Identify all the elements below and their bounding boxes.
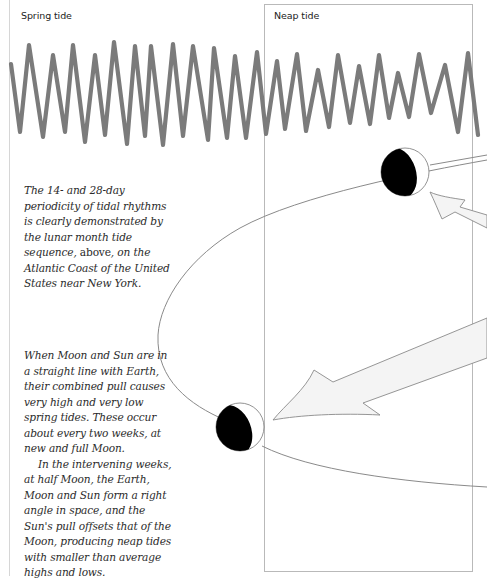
moon-lower-icon [207, 399, 264, 461]
moon-upper-icon [373, 143, 429, 204]
moon-orbit-path-lower [262, 446, 487, 487]
sun-pull-arrow-upper-icon [430, 192, 487, 228]
tide-wave-line [11, 42, 478, 145]
sun-pull-arrow-lower-icon [273, 318, 487, 420]
caption-paragraph-2: In the intervening weeks, at half Moon, … [24, 457, 172, 581]
caption-paragraph-1: When Moon and Sun are in a straight line… [24, 348, 172, 457]
caption-emphasis: above [80, 246, 111, 258]
moon-orbit-path-upper-right [430, 155, 487, 165]
periodicity-caption: The 14- and 28-day periodicity of tidal … [24, 183, 174, 292]
spring-neap-caption: When Moon and Sun are in a straight line… [24, 348, 172, 581]
